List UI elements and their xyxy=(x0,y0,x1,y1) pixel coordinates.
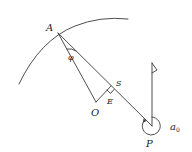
right-angle-marker xyxy=(107,90,114,94)
label-a0-subscript: 0 xyxy=(176,126,180,133)
angle-a0-arc xyxy=(142,117,160,135)
label-A: A xyxy=(45,22,53,33)
circle-arc xyxy=(19,18,128,84)
label-phi: φ xyxy=(68,53,74,62)
label-P: P xyxy=(145,138,153,149)
label-S: S xyxy=(116,79,122,88)
flag-icon xyxy=(152,63,157,73)
line-AP xyxy=(58,33,152,126)
line-AO xyxy=(58,33,96,102)
label-E: E xyxy=(106,97,113,106)
geometry-diagram: A φ S E O P a 0 xyxy=(0,0,192,152)
label-O: O xyxy=(91,107,99,118)
